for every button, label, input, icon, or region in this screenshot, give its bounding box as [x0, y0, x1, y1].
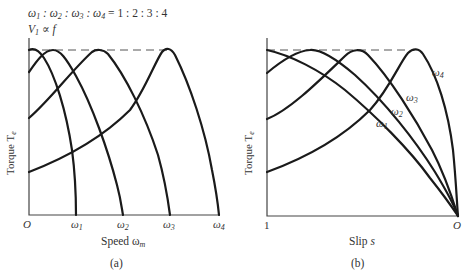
tick-w1: ω1 [71, 218, 83, 232]
caption-b: (b) [351, 257, 365, 270]
voltage-frequency-annotation: V1 ∝ f [28, 23, 58, 37]
caption-a: (a) [110, 257, 123, 270]
curve-w1-b [267, 50, 458, 216]
tick-w3: ω3 [163, 218, 175, 232]
x-axis-label-b: Slip s [349, 235, 375, 248]
curve-w1-a [29, 49, 76, 215]
y-axis-label-a: Torque Te [4, 131, 18, 175]
curve-label-w1: ω1 [376, 117, 388, 131]
curve-w3-b [267, 50, 458, 216]
ratio-annotation: ω1 : ω2 : ω3 : ω4 = 1 : 2 : 3 : 4 [28, 7, 168, 21]
tick-w4: ω4 [213, 218, 225, 232]
curve-label-w2: ω2 [391, 105, 403, 119]
tick-slip-one: 1 [264, 219, 270, 231]
tick-w2: ω2 [117, 218, 129, 232]
curve-w3-a [29, 50, 170, 215]
tick-origin-b: O [453, 219, 461, 231]
torque-speed-figure: ω1 : ω2 : ω3 : ω4 = 1 : 2 : 3 : 4 V1 ∝ f… [0, 0, 470, 279]
x-axis-label-a: Speed ωm [101, 235, 146, 249]
panel-b: ω4 ω3 ω2 ω1 Torque Te 1 O Slip s (b) [242, 38, 461, 270]
axes-a [29, 38, 220, 215]
curve-label-w4: ω4 [432, 66, 444, 80]
curve-w2-b [267, 50, 458, 216]
y-axis-label-b: Torque Te [242, 131, 256, 175]
curve-label-w3: ω3 [406, 91, 418, 105]
curve-w4-a [29, 49, 219, 215]
curve-w4-b [267, 49, 458, 216]
tick-origin-a: O [23, 218, 31, 230]
panel-a: ω1 : ω2 : ω3 : ω4 = 1 : 2 : 3 : 4 V1 ∝ f… [4, 7, 225, 270]
